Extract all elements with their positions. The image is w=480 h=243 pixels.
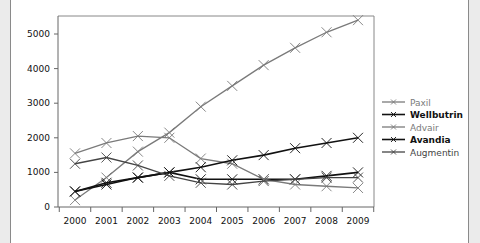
data-point — [133, 160, 143, 170]
legend-label: Augmentin — [410, 148, 459, 158]
data-point — [196, 102, 206, 112]
legend-item-wellbutrin: Wellbutrin — [382, 110, 463, 120]
y-tick-label: 2000 — [27, 133, 50, 143]
x-tick-label: 2002 — [126, 216, 149, 226]
x-tick-label: 2008 — [315, 216, 338, 226]
x-tick-label: 2003 — [158, 216, 181, 226]
data-point — [101, 153, 111, 163]
data-point — [70, 195, 80, 205]
x-tick-label: 2007 — [284, 216, 307, 226]
y-tick-label: 5000 — [27, 29, 50, 39]
x-tick-label: 2001 — [95, 216, 118, 226]
x-tick-label: 2006 — [252, 216, 275, 226]
y-tick-label: 0 — [44, 202, 50, 212]
axes: 0100020003000400050002000200120022003200… — [27, 16, 374, 226]
series-line-paxil — [75, 20, 358, 200]
legend-label: Paxil — [410, 98, 431, 108]
x-tick-label: 2004 — [189, 216, 212, 226]
legend: PaxilWellbutrinAdvairAvandiaAugmentin — [382, 98, 463, 158]
legend-item-augmentin: Augmentin — [382, 148, 459, 158]
y-tick-label: 1000 — [27, 167, 50, 177]
data-point — [133, 147, 143, 157]
data-point — [322, 27, 332, 37]
line-chart: 0100020003000400050002000200120022003200… — [0, 0, 480, 243]
series-avandia — [70, 133, 363, 197]
series-group — [70, 15, 363, 205]
y-tick-label: 4000 — [27, 64, 50, 74]
legend-label: Avandia — [410, 135, 451, 145]
series-line-wellbutrin — [75, 172, 358, 191]
legend-item-advair: Advair — [382, 123, 439, 133]
data-point — [70, 148, 80, 158]
x-tick-label: 2005 — [221, 216, 244, 226]
data-point — [259, 60, 269, 70]
data-point — [164, 128, 174, 138]
data-point — [353, 15, 363, 25]
legend-label: Wellbutrin — [410, 110, 463, 120]
x-tick-label: 2000 — [64, 216, 87, 226]
data-point — [227, 81, 237, 91]
y-tick-label: 3000 — [27, 98, 50, 108]
x-tick-label: 2009 — [347, 216, 370, 226]
data-point — [101, 138, 111, 148]
data-point — [70, 159, 80, 169]
legend-item-avandia: Avandia — [382, 135, 451, 145]
legend-label: Advair — [410, 123, 439, 133]
data-point — [290, 43, 300, 53]
legend-item-paxil: Paxil — [382, 98, 431, 108]
